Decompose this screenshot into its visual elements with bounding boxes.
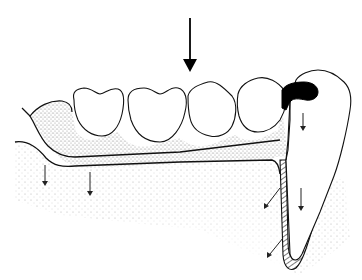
artificial-teeth	[73, 78, 286, 142]
denture-illustration	[0, 0, 362, 280]
artificial-tooth-1	[73, 88, 123, 136]
diagram-canvas	[0, 0, 362, 280]
occlusal-force-arrow	[183, 18, 197, 72]
artificial-tooth-4	[237, 78, 286, 132]
artificial-tooth-3	[188, 82, 236, 137]
artificial-tooth-2	[128, 88, 186, 142]
